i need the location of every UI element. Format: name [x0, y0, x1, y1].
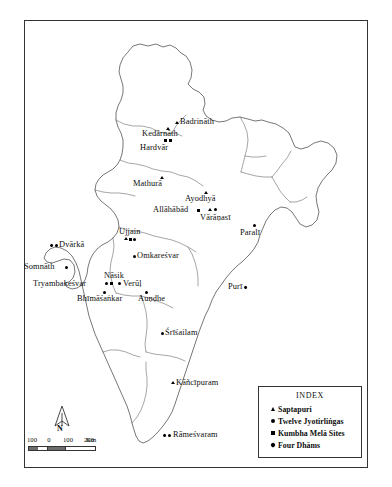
- scale-bar: 100 0 100 200: [28, 436, 124, 451]
- legend-item-jyotirlingas: Twelve Jyotirliṅgas: [259, 415, 361, 427]
- legend-item-saptapuri: Saptapuri: [259, 403, 361, 415]
- legend-item-four-dhams: Four Dhāms: [259, 439, 361, 451]
- scale-segment-4: [66, 447, 95, 450]
- marker-hardvar: [169, 139, 172, 142]
- label-nasik: Nāsik: [104, 272, 124, 280]
- marker-kancipuram: [171, 381, 175, 384]
- marker-ujjain-jyotirlinga: [133, 238, 136, 241]
- circle-icon: [268, 419, 278, 423]
- label-ayodhya: Ayodhyā: [185, 195, 216, 203]
- label-puri: Purī: [228, 283, 242, 291]
- label-badrinath: Badrināth: [180, 118, 214, 126]
- scale-tick-labels: 100 0 100 200: [28, 436, 124, 445]
- scale-segment-1: [29, 447, 38, 450]
- label-allahabad: Allāhābād: [153, 206, 188, 214]
- label-dvarka: Dvārkā: [59, 241, 84, 249]
- label-ujjain: Ujjain: [119, 228, 141, 236]
- label-ramesvaram: Rāmeśvaram: [173, 431, 218, 439]
- marker-badrinath: [175, 121, 179, 124]
- marker-hardvar-kumbha: [164, 139, 167, 142]
- label-omkaresvar: Omkareśvar: [137, 252, 179, 260]
- legend-label-jyotirlingas: Twelve Jyotirliṅgas: [278, 417, 344, 426]
- scale-unit-label: Km: [86, 436, 96, 443]
- legend-label-kumbha-mela: Kumbha Melā Sites: [278, 429, 345, 438]
- marker-varanasi-saptapuri: [208, 208, 212, 211]
- triangle-icon: [268, 407, 278, 411]
- marker-ujjain-kumbha: [129, 238, 132, 241]
- label-verul: Verūḷ: [123, 280, 142, 288]
- label-kedarnath: Kedārnāth: [142, 130, 178, 138]
- scale-bar-graphic: [28, 446, 96, 451]
- label-tryambakesvar: Tryambakeśvar: [33, 280, 86, 288]
- map-legend: INDEX Saptapuri Twelve Jyotirliṅgas Kumb…: [258, 386, 362, 458]
- diamond-icon: [268, 443, 278, 447]
- marker-ujjain-saptapuri: [124, 237, 128, 240]
- scale-tick-1: 0: [47, 436, 50, 443]
- marker-nasik: [110, 282, 113, 285]
- label-aundhe: Auṇḍhe: [138, 295, 165, 303]
- north-label: N: [57, 424, 63, 433]
- label-mathura: Mathurā: [133, 180, 162, 188]
- scale-segment-3: [48, 447, 65, 450]
- label-srisailam: Śrīśailam: [165, 329, 198, 337]
- label-varanasi: Vārāṇasī: [200, 214, 231, 222]
- scale-segment-2: [38, 447, 47, 450]
- label-bhimasankar: Bhīmāśaṅkar: [77, 295, 122, 303]
- legend-item-kumbha-mela: Kumbha Melā Sites: [259, 427, 361, 439]
- label-hardvar: Hardvār: [140, 144, 168, 152]
- marker-varanasi-jyotirlinga: [214, 208, 217, 211]
- legend-label-saptapuri: Saptapuri: [278, 405, 312, 414]
- legend-title: INDEX: [259, 391, 361, 400]
- label-parali: Paralī: [240, 229, 260, 237]
- scale-tick-0: 100: [27, 436, 37, 443]
- marker-allahabad: [197, 209, 200, 212]
- square-icon: [268, 431, 278, 435]
- scale-tick-2: 100: [63, 436, 73, 443]
- india-pilgrimage-map: Badrināth Kedārnāth Hardvār Mathurā Ayod…: [0, 0, 392, 487]
- label-somnath: Somnāth: [24, 263, 54, 271]
- legend-label-four-dhams: Four Dhāms: [278, 441, 320, 450]
- label-kancipuram: Kāñcīpuram: [176, 379, 218, 387]
